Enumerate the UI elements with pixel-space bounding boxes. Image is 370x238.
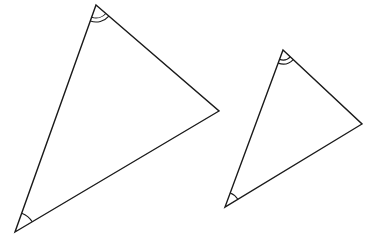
small-triangle [225,50,362,207]
small-triangle-outline [225,50,362,207]
large-triangle-bottom-left-angle-mark [22,213,32,222]
similar-triangles-diagram [0,0,370,238]
large-triangle-top-angle-mark [90,16,109,22]
small-triangle-bottom-left-angle-mark [230,193,238,199]
small-triangle-top-angle-mark [280,57,291,60]
large-triangle-angle-marks [22,13,109,221]
large-triangle [15,5,219,232]
large-triangle-top-angle-mark [92,13,106,18]
large-triangle-outline [15,5,219,232]
small-triangle-angle-marks [230,57,293,199]
